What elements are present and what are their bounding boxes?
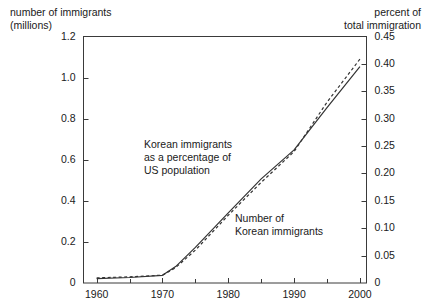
x-axis-tick-label: 1960: [72, 289, 122, 300]
x-axis-tick-label: 1980: [203, 289, 253, 300]
annotation-percentage: Korean immigrants as a percentage of US …: [144, 138, 232, 177]
chart-figure: number of immigrants (millions) percent …: [0, 0, 427, 308]
x-axis-tick-label: 1990: [269, 289, 319, 300]
left-axis-tick-label: 0.4: [40, 195, 76, 206]
right-axis-tick-label: 0.15: [375, 195, 415, 206]
annotation-number: Number of Korean immigrants: [235, 212, 323, 238]
left-axis-tick-label: 0.2: [40, 236, 76, 247]
left-axis-tick-label: 1.2: [40, 31, 76, 42]
x-axis-tick-label: 2000: [335, 289, 385, 300]
right-axis-tick-label: 0.05: [375, 250, 415, 261]
right-axis-tick-label: 0.25: [375, 140, 415, 151]
right-axis-tick-label: 0.35: [375, 85, 415, 96]
left-axis-tick-label: 0.8: [40, 113, 76, 124]
x-axis-tick-label: 1970: [137, 289, 187, 300]
left-axis-tick-label: 1.0: [40, 72, 76, 83]
left-axis-tick-label: 0.6: [40, 154, 76, 165]
right-axis-tick-label: 0.45: [375, 31, 415, 42]
right-axis-tick-label: 0.20: [375, 167, 415, 178]
right-axis-tick-label: 0.10: [375, 222, 415, 233]
right-axis-tick-label: 0.40: [375, 58, 415, 69]
right-axis-tick-label: 0: [375, 277, 415, 288]
left-axis-tick-label: 0: [40, 277, 76, 288]
right-axis-tick-label: 0.30: [375, 113, 415, 124]
